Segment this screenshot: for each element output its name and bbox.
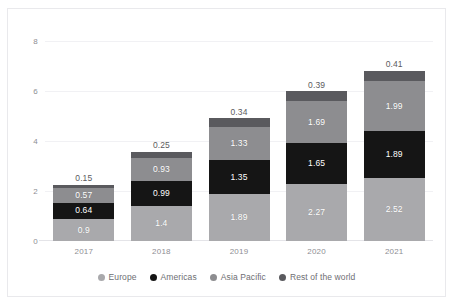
bar-group-2019[interactable]: 1.891.351.330.342019 — [209, 118, 270, 241]
bar-segment-rest-of-the-world[interactable]: 0.34 — [209, 118, 270, 127]
bar-segment-value-label: 0.57 — [75, 191, 92, 200]
bar-segment-asia-pacific[interactable]: 1.69 — [286, 101, 347, 143]
bar-segment-value-label: 1.4 — [155, 219, 167, 228]
bar-group-2020[interactable]: 2.271.651.690.392020 — [286, 91, 347, 241]
legend-item-europe[interactable]: Europe — [98, 272, 137, 282]
bar-segment-asia-pacific[interactable]: 1.33 — [209, 127, 270, 160]
bar-segment-rest-of-the-world[interactable]: 0.41 — [364, 71, 425, 81]
bar-segment-asia-pacific[interactable]: 0.57 — [53, 188, 114, 202]
bar-segment-value-label: 0.41 — [386, 60, 403, 69]
bar-segment-value-label: 1.65 — [308, 159, 325, 168]
bar-segment-value-label: 1.35 — [231, 173, 248, 182]
plot-area: 024680.90.640.570.1520171.40.990.930.252… — [45, 31, 433, 241]
bar-segment-americas[interactable]: 1.35 — [209, 160, 270, 194]
y-axis-tick-label: 6 — [33, 87, 38, 96]
bar-segment-value-label: 2.52 — [386, 205, 403, 214]
gridline — [45, 41, 433, 42]
x-axis-tick-label-2021: 2021 — [364, 247, 425, 256]
bar-segment-europe[interactable]: 2.27 — [286, 184, 347, 241]
bar-segment-asia-pacific[interactable]: 0.93 — [131, 158, 192, 181]
bar-group-2017[interactable]: 0.90.640.570.152017 — [53, 185, 114, 242]
x-axis-tick-label-2020: 2020 — [286, 247, 347, 256]
y-axis-tick-label: 8 — [33, 37, 38, 46]
bar-segment-value-label: 2.27 — [308, 208, 325, 217]
bar-segment-value-label: 0.99 — [153, 189, 170, 198]
bar-segment-americas[interactable]: 0.64 — [53, 203, 114, 219]
legend-label: Rest of the world — [290, 272, 355, 282]
x-axis-tick-label-2018: 2018 — [131, 247, 192, 256]
bar-segment-value-label: 0.25 — [153, 141, 170, 150]
legend-item-americas[interactable]: Americas — [150, 272, 197, 282]
bar-segment-value-label: 0.15 — [75, 174, 92, 183]
bar-segment-americas[interactable]: 1.89 — [364, 131, 425, 178]
y-axis-tick-label: 0 — [33, 237, 38, 246]
legend-item-asia-pacific[interactable]: Asia Pacific — [210, 272, 266, 282]
chart-legend: EuropeAmericasAsia PacificRest of the wo… — [8, 272, 445, 282]
bar-segment-value-label: 1.89 — [386, 150, 403, 159]
legend-label: Europe — [109, 272, 137, 282]
bar-segment-americas[interactable]: 1.65 — [286, 143, 347, 184]
bar-segment-rest-of-the-world[interactable]: 0.25 — [131, 152, 192, 158]
y-axis-tick-label: 4 — [33, 137, 38, 146]
bar-segment-value-label: 1.69 — [308, 118, 325, 127]
bar-segment-value-label: 0.39 — [308, 81, 325, 90]
x-axis-tick-label-2019: 2019 — [209, 247, 270, 256]
bar-segment-rest-of-the-world[interactable]: 0.15 — [53, 185, 114, 189]
legend-label: Asia Pacific — [221, 272, 266, 282]
bar-segment-europe[interactable]: 0.9 — [53, 219, 114, 242]
legend-swatch-icon — [98, 274, 105, 281]
bar-segment-europe[interactable]: 1.89 — [209, 194, 270, 241]
legend-swatch-icon — [279, 274, 286, 281]
bar-group-2021[interactable]: 2.521.891.990.412021 — [364, 71, 425, 241]
legend-label: Americas — [161, 272, 197, 282]
y-axis-tick-label: 2 — [33, 187, 38, 196]
bar-segment-value-label: 0.9 — [78, 226, 90, 235]
bar-segment-value-label: 1.89 — [231, 213, 248, 222]
bar-segment-europe[interactable]: 2.52 — [364, 178, 425, 241]
legend-item-rest-of-the-world[interactable]: Rest of the world — [279, 272, 355, 282]
bar-segment-value-label: 0.93 — [153, 165, 170, 174]
legend-swatch-icon — [210, 274, 217, 281]
bar-segment-value-label: 1.99 — [386, 102, 403, 111]
bar-group-2018[interactable]: 1.40.990.930.252018 — [131, 152, 192, 241]
chart-frame: 024680.90.640.570.1520171.40.990.930.252… — [7, 8, 446, 297]
bar-segment-asia-pacific[interactable]: 1.99 — [364, 81, 425, 131]
bar-segment-value-label: 0.34 — [231, 108, 248, 117]
legend-swatch-icon — [150, 274, 157, 281]
bar-segment-rest-of-the-world[interactable]: 0.39 — [286, 91, 347, 101]
bar-segment-value-label: 1.33 — [231, 139, 248, 148]
bar-segment-value-label: 0.64 — [75, 206, 92, 215]
bar-segment-americas[interactable]: 0.99 — [131, 181, 192, 206]
bar-segment-europe[interactable]: 1.4 — [131, 206, 192, 241]
x-axis-tick-label-2017: 2017 — [53, 247, 114, 256]
